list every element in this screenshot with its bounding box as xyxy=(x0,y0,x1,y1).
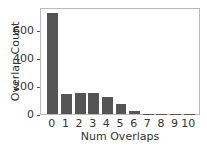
x-axis-label: Num Overlaps xyxy=(40,130,200,143)
bar xyxy=(116,104,127,115)
y-tick-mark xyxy=(37,115,40,116)
y-tick-label: 400 xyxy=(4,53,34,64)
y-tick-label: 600 xyxy=(4,25,34,36)
plot-area xyxy=(40,8,200,115)
bar xyxy=(88,93,99,114)
bar xyxy=(102,97,113,114)
x-tick-label: 10 xyxy=(180,117,196,130)
bar xyxy=(47,13,58,114)
y-tick-label: 200 xyxy=(4,81,34,92)
bar xyxy=(61,94,72,114)
bar xyxy=(129,111,140,114)
y-tick-label: 0 xyxy=(4,109,34,120)
bar xyxy=(75,93,86,114)
